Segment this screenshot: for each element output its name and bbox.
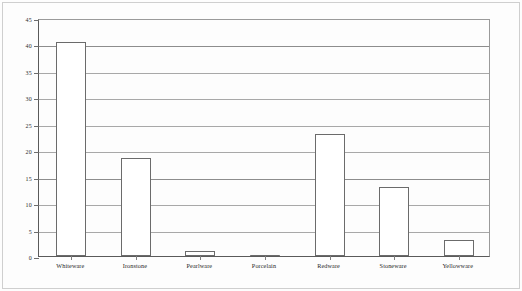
y-axis-tick bbox=[34, 99, 39, 100]
y-axis-label: 15 bbox=[26, 176, 32, 182]
gridline bbox=[39, 232, 489, 233]
y-axis-label: 0 bbox=[29, 255, 32, 261]
gridline bbox=[39, 205, 489, 206]
x-axis-tick bbox=[136, 256, 137, 260]
x-axis-label-porcelain: Porcelain bbox=[252, 262, 276, 269]
y-axis-tick bbox=[34, 152, 39, 153]
x-axis-tick bbox=[200, 256, 201, 260]
y-axis-label: 45 bbox=[26, 17, 32, 23]
y-axis-label: 25 bbox=[26, 123, 32, 129]
y-axis-tick bbox=[34, 126, 39, 127]
bar-ironstone bbox=[121, 158, 151, 256]
y-axis-tick bbox=[34, 73, 39, 74]
bar-whiteware bbox=[56, 42, 86, 256]
bar-stoneware bbox=[379, 187, 409, 256]
y-axis-label: 35 bbox=[26, 70, 32, 76]
bar-yellowware bbox=[444, 240, 474, 256]
y-axis-label: 20 bbox=[26, 149, 32, 155]
x-axis-tick bbox=[71, 256, 72, 260]
gridline bbox=[39, 46, 489, 47]
y-axis-tick bbox=[34, 258, 39, 259]
gridline bbox=[39, 99, 489, 100]
x-axis-label-ironstone: Ironstone bbox=[123, 262, 147, 269]
x-axis-label-stoneware: Stoneware bbox=[380, 262, 407, 269]
y-axis-tick bbox=[34, 179, 39, 180]
x-axis-label-pearlware: Pearlware bbox=[187, 262, 213, 269]
y-axis-tick bbox=[34, 232, 39, 233]
x-axis-tick bbox=[330, 256, 331, 260]
bar-chart-figure: 051015202530354045 WhitewareIronstonePea… bbox=[0, 0, 522, 291]
x-axis-label-yellowware: Yellowware bbox=[442, 262, 473, 269]
x-axis-tick bbox=[394, 256, 395, 260]
gridline bbox=[39, 152, 489, 153]
y-axis-label: 10 bbox=[26, 202, 32, 208]
bar-redware bbox=[315, 134, 345, 256]
y-axis-label: 40 bbox=[26, 43, 32, 49]
gridline bbox=[39, 179, 489, 180]
y-axis-label: 5 bbox=[29, 229, 32, 235]
gridline bbox=[39, 73, 489, 74]
plot-area: 051015202530354045 bbox=[38, 19, 490, 257]
x-axis-tick bbox=[459, 256, 460, 260]
y-axis-tick bbox=[34, 205, 39, 206]
y-axis-tick bbox=[34, 46, 39, 47]
x-axis-tick bbox=[265, 256, 266, 260]
x-axis-label-whiteware: Whiteware bbox=[56, 262, 84, 269]
y-axis-label: 30 bbox=[26, 96, 32, 102]
x-axis-label-redware: Redware bbox=[317, 262, 340, 269]
gridline bbox=[39, 126, 489, 127]
y-axis-tick bbox=[34, 20, 39, 21]
